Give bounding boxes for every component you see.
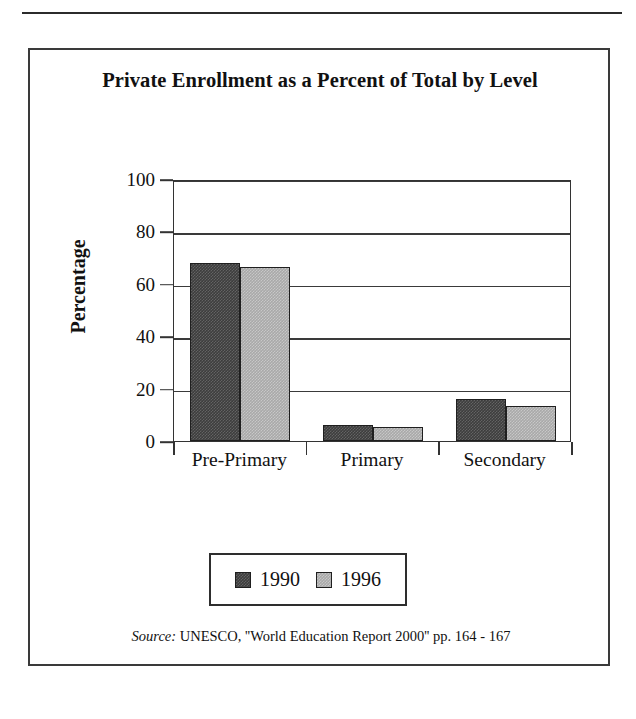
y-tick-mark-40 [160,336,173,338]
y-tick-label-20: 20 [97,379,155,401]
x-axis-separator-0 [173,442,175,455]
source-note: Source: UNESCO, ''World Education Report… [30,628,612,645]
bar-secondary-1990[interactable] [456,399,506,441]
legend-label-1990: 1990 [260,568,300,591]
legend-swatch-1996-icon [316,572,332,588]
source-prefix: Source: [132,628,177,644]
plot-wrapper: Percentage 020406080100 Pre-PrimaryPrima… [30,155,612,455]
x-category-label-pre-primary: Pre-Primary [173,449,306,471]
y-tick-mark-100 [160,179,173,181]
page-top-rule [22,12,622,14]
y-tick-mark-20 [160,389,173,391]
y-tick-label-40: 40 [97,326,155,348]
x-category-label-secondary: Secondary [438,449,571,471]
y-axis-title: Percentage [67,187,90,387]
bars-layer [174,181,570,441]
legend-item-1996[interactable]: 1996 [316,568,381,591]
bar-pre-primary-1990[interactable] [190,263,240,441]
x-axis-separator-1 [306,442,308,455]
bar-pre-primary-1996[interactable] [240,267,290,441]
x-axis-separator-2 [438,442,440,455]
y-tick-mark-0 [160,441,173,443]
bar-primary-1996[interactable] [373,427,423,441]
legend-swatch-1990-icon [235,572,251,588]
y-tick-label-0: 0 [97,431,155,453]
legend-label-1996: 1996 [341,568,381,591]
chart-legend: 1990 1996 [209,553,407,606]
y-tick-mark-60 [160,284,173,286]
legend-item-1990[interactable]: 1990 [235,568,300,591]
y-tick-label-60: 60 [97,274,155,296]
chart-title: Private Enrollment as a Percent of Total… [70,66,570,94]
y-tick-label-80: 80 [97,221,155,243]
bar-primary-1990[interactable] [323,425,373,441]
x-axis-separator-3 [571,442,573,455]
x-category-label-primary: Primary [306,449,439,471]
y-tick-mark-80 [160,232,173,234]
plot-area [173,180,571,442]
figure-container: Private Enrollment as a Percent of Total… [28,48,610,666]
bar-secondary-1996[interactable] [506,406,556,441]
source-text: UNESCO, ''World Education Report 2000'' … [180,628,511,644]
y-tick-label-100: 100 [97,169,155,191]
